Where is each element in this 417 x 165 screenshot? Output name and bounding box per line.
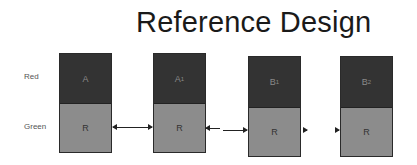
block-b2: B2 R <box>340 56 393 157</box>
arrow-a-to-a1 <box>113 127 152 128</box>
block-b2-green-cell: R <box>341 108 392 156</box>
block-b1-green-cell: R <box>249 108 300 156</box>
arrow-b1-to-b2-right <box>335 130 339 131</box>
arrow-a1-to-b1-left <box>206 128 220 129</box>
block-b1-red-cell: B1 <box>249 57 300 108</box>
block-b2-green-label: R <box>363 127 370 137</box>
block-b1: B1 R <box>248 56 301 157</box>
block-a-red-cell: A <box>60 54 111 104</box>
arrow-b1-to-b2-left <box>303 130 307 131</box>
arrow-a1-to-b1-right <box>223 130 247 131</box>
block-a1-green-label: R <box>176 123 183 133</box>
arrowhead-left-icon <box>112 124 117 130</box>
diagram-title: Reference Design <box>136 6 371 39</box>
block-b2-red-cell: B2 <box>341 57 392 108</box>
arrowhead-right-icon <box>335 127 340 133</box>
arrowhead-right-icon <box>243 127 248 133</box>
block-a-green-label: R <box>82 123 89 133</box>
row-label-green: Green <box>24 122 46 131</box>
arrowhead-right-icon <box>303 127 308 133</box>
block-a-green-cell: R <box>60 104 111 152</box>
block-a1: A1 R <box>153 53 206 153</box>
block-a: A R <box>59 53 112 153</box>
block-a1-red-cell: A1 <box>154 54 205 104</box>
arrowhead-left-icon <box>205 125 210 131</box>
block-b1-green-label: R <box>271 127 278 137</box>
arrowhead-right-icon <box>148 124 153 130</box>
block-a-red-label: A <box>82 74 88 84</box>
block-a1-green-cell: R <box>154 104 205 152</box>
row-label-red: Red <box>24 72 39 81</box>
